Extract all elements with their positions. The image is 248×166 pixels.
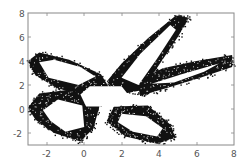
scatter-chart: -2 0 2 4 6 8 8 6 4 2 0 -2 — [0, 0, 248, 166]
x-tick-label: 4 — [156, 149, 162, 159]
x-tick-label: 2 — [119, 149, 125, 159]
central-hexagon-hole — [80, 86, 129, 106]
y-tick-label: 0 — [19, 105, 25, 115]
empty-regions — [39, 25, 219, 137]
y-tick-label: -2 — [13, 129, 22, 139]
y-tick-label: 8 — [19, 9, 25, 19]
x-tick-label: 8 — [231, 149, 237, 159]
x-tick-label: 0 — [81, 149, 87, 159]
x-tick-label: -2 — [42, 149, 51, 159]
y-tick-label: 2 — [19, 81, 25, 91]
x-tick-label: 6 — [194, 149, 200, 159]
y-tick-label: 4 — [19, 57, 25, 67]
y-tick-label: 6 — [19, 33, 25, 43]
